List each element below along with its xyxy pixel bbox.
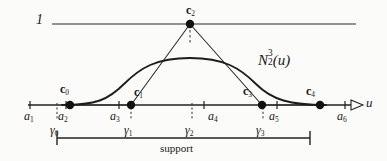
control-point-dot-c4 bbox=[316, 101, 324, 109]
knot-label-gamma0: γ0 bbox=[50, 124, 58, 138]
control-point-dot-c2 bbox=[186, 20, 194, 28]
unit-height-label: 1 bbox=[36, 13, 43, 27]
bspline-basis-figure: 1 c0 c1 c2 c3 c4 N32(u) u a1 a2 a3 a4 a5… bbox=[0, 0, 387, 161]
control-point-label-c0: c0 bbox=[60, 83, 69, 97]
knot-label-gamma2: γ2 bbox=[185, 124, 193, 138]
axis-tick-label-a4: a4 bbox=[208, 110, 218, 124]
support-caption: support bbox=[160, 143, 193, 154]
control-point-dot-c3 bbox=[258, 101, 266, 109]
control-point-dot-c0 bbox=[66, 101, 74, 109]
basis-function-label: N32(u) bbox=[258, 49, 290, 68]
control-point-label-c3: c3 bbox=[243, 85, 252, 99]
knot-label-gamma1: γ1 bbox=[124, 124, 132, 138]
u-axis-arrowhead bbox=[351, 100, 363, 110]
axis-tick-label-a5: a5 bbox=[269, 110, 279, 124]
axis-tick-label-a3: a3 bbox=[110, 110, 120, 124]
control-point-label-c2: c2 bbox=[186, 4, 195, 18]
control-point-label-c1: c1 bbox=[134, 86, 143, 100]
knot-label-gamma3: γ3 bbox=[256, 124, 264, 138]
control-point-dot-c1 bbox=[127, 101, 135, 109]
control-point-label-c4: c4 bbox=[306, 85, 315, 99]
axis-tick-label-a6: a6 bbox=[337, 110, 347, 124]
axis-tick-label-a1: a1 bbox=[24, 110, 34, 124]
u-axis-label: u bbox=[366, 96, 373, 109]
axis-tick-label-a2: a2 bbox=[58, 110, 68, 124]
